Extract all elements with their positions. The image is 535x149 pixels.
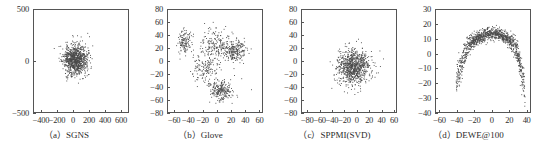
x-tick-label: 200 — [83, 116, 95, 125]
x-tick-mark — [121, 110, 122, 113]
x-tick-label: 600 — [115, 116, 127, 125]
x-tick-mark — [174, 110, 175, 113]
x-tick-label: −40 — [451, 116, 463, 125]
y-tick-label: 0 — [402, 49, 431, 58]
y-tick-mark — [167, 22, 170, 23]
y-tick-label: −10 — [402, 64, 431, 73]
x-tick-label: −60 — [168, 116, 180, 125]
y-tick-mark — [301, 35, 304, 36]
y-tick-label: −500 — [0, 109, 29, 118]
y-tick-mark — [435, 113, 438, 114]
y-tick-label: 80 — [134, 5, 163, 14]
y-tick-mark — [167, 35, 170, 36]
y-tick-mark — [301, 113, 304, 114]
x-tick-mark — [394, 110, 395, 113]
scatter-points-c — [302, 10, 396, 112]
x-tick-mark — [527, 110, 528, 113]
x-tick-label: −400 — [33, 116, 49, 125]
x-tick-label: 40 — [378, 116, 386, 125]
x-tick-label: −200 — [49, 116, 65, 125]
x-tick-mark — [89, 110, 90, 113]
y-tick-label: 30 — [402, 5, 431, 14]
x-tick-mark — [73, 110, 74, 113]
y-axis-d: −40−30−20−100102030 — [402, 0, 433, 149]
x-tick-label: 40 — [523, 116, 531, 125]
y-tick-mark — [435, 24, 438, 25]
y-tick-mark — [33, 9, 36, 10]
y-tick-mark — [167, 48, 170, 49]
y-axis-b: −80−60−40−20020406080 — [134, 0, 165, 149]
y-tick-label: 20 — [268, 44, 297, 53]
x-tick-mark — [203, 110, 204, 113]
y-tick-label: −20 — [402, 79, 431, 88]
x-tick-mark — [332, 110, 333, 113]
y-tick-mark — [301, 48, 304, 49]
y-tick-label: −80 — [134, 109, 163, 118]
x-tick-mark — [357, 110, 358, 113]
y-tick-mark — [33, 113, 36, 114]
y-tick-mark — [33, 61, 36, 62]
y-tick-label: −60 — [134, 96, 163, 105]
y-tick-label: −40 — [402, 109, 431, 118]
y-tick-label: 60 — [268, 18, 297, 27]
y-tick-label: −20 — [134, 70, 163, 79]
x-tick-mark — [259, 110, 260, 113]
y-tick-mark — [435, 9, 438, 10]
y-tick-label: −60 — [268, 96, 297, 105]
y-tick-label: 40 — [134, 31, 163, 40]
x-tick-mark — [382, 110, 383, 113]
x-tick-mark — [457, 110, 458, 113]
y-tick-label: −30 — [402, 94, 431, 103]
y-tick-label: 60 — [134, 18, 163, 27]
x-tick-mark — [474, 110, 475, 113]
y-axis-a: −5000500 — [0, 0, 31, 149]
x-tick-mark — [320, 110, 321, 113]
y-tick-mark — [167, 61, 170, 62]
x-tick-mark — [492, 110, 493, 113]
x-tick-mark — [369, 110, 370, 113]
x-tick-label: 60 — [390, 116, 398, 125]
x-tick-label: −80 — [301, 116, 313, 125]
y-tick-label: 20 — [134, 44, 163, 53]
y-tick-label: −20 — [268, 70, 297, 79]
x-tick-label: −20 — [338, 116, 350, 125]
plot-area-d — [435, 9, 531, 113]
y-tick-mark — [435, 54, 438, 55]
y-tick-mark — [167, 74, 170, 75]
x-tick-mark — [307, 110, 308, 113]
y-tick-label: 10 — [402, 34, 431, 43]
y-tick-mark — [167, 113, 170, 114]
y-tick-label: 80 — [268, 5, 297, 14]
x-tick-mark — [439, 110, 440, 113]
caption-b: （b）Glove — [134, 130, 267, 141]
x-tick-mark — [188, 110, 189, 113]
x-tick-mark — [231, 110, 232, 113]
x-tick-label: 0 — [355, 116, 359, 125]
scatter-points-d — [436, 10, 530, 112]
panel-a: −5000500 −400−2000200400600 （a）SGNS — [0, 0, 133, 149]
panel-b: −80−60−40−20020406080 −60−40−200204060 （… — [134, 0, 267, 149]
x-tick-label: 0 — [490, 116, 494, 125]
y-tick-label: 20 — [402, 20, 431, 29]
y-tick-mark — [301, 61, 304, 62]
x-tick-label: 0 — [215, 116, 219, 125]
y-tick-label: 0 — [268, 57, 297, 66]
x-tick-label: 20 — [365, 116, 373, 125]
y-tick-label: 0 — [134, 57, 163, 66]
x-tick-label: −40 — [182, 116, 194, 125]
y-tick-mark — [167, 87, 170, 88]
scatter-points-a — [34, 10, 128, 112]
figure-scatter-panels: −5000500 −400−2000200400600 （a）SGNS −80−… — [0, 0, 535, 149]
y-axis-c: −80−60−40−20020406080 — [268, 0, 299, 149]
x-tick-mark — [245, 110, 246, 113]
y-tick-mark — [167, 100, 170, 101]
x-tick-mark — [509, 110, 510, 113]
y-tick-mark — [301, 22, 304, 23]
x-tick-label: 0 — [71, 116, 75, 125]
caption-a: （a）SGNS — [0, 130, 133, 141]
x-tick-label: 20 — [505, 116, 513, 125]
x-tick-mark — [57, 110, 58, 113]
x-tick-label: 60 — [255, 116, 263, 125]
y-tick-label: −40 — [268, 83, 297, 92]
plot-area-a — [33, 9, 129, 113]
